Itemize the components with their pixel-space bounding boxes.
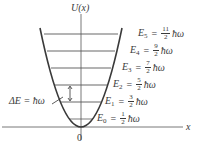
energy-label-e1: E1 = 32 ħω (105, 94, 148, 109)
energy-label-e0: E0 = 12 ħω (97, 111, 140, 126)
level-name: E2 (113, 78, 123, 91)
origin-label: 0 (77, 133, 82, 143)
y-axis-label: U(x) (71, 3, 89, 13)
level-name: E4 (130, 44, 140, 57)
energy-label-e3: E3 = 72 ħω (122, 60, 165, 75)
level-name: E5 (138, 27, 148, 40)
fraction: 52 (136, 77, 142, 92)
fraction: 12 (120, 111, 126, 126)
delta-e-label: ΔE = ħω (9, 96, 45, 106)
fraction: 32 (128, 94, 134, 109)
energy-label-e5: E5 = 112 ħω (138, 26, 184, 41)
energy-label-e2: E2 = 52 ħω (113, 77, 156, 92)
level-name: E3 (122, 61, 132, 74)
fraction: 92 (153, 43, 159, 58)
level-name: E1 (105, 95, 115, 108)
fraction: 112 (161, 26, 170, 41)
level-name: E0 (97, 112, 107, 125)
energy-label-e4: E4 = 92 ħω (130, 43, 173, 58)
fraction: 72 (145, 60, 151, 75)
x-axis-label: x (186, 122, 190, 132)
delta-e-arrow (68, 86, 72, 101)
